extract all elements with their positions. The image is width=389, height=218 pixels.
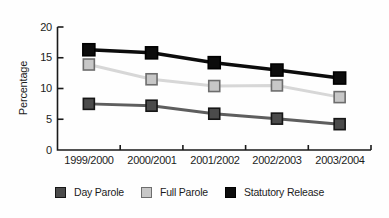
y-tick-label-0: 0: [28, 144, 52, 156]
legend-label-day-parole: Day Parole: [74, 186, 124, 198]
y-tick-label-10: 10: [28, 82, 52, 94]
legend-label-full-parole: Full Parole: [160, 186, 208, 198]
day-parole-swatch-icon: [55, 187, 66, 198]
x-tick-label-2000-2001: 2000/2001: [120, 154, 184, 167]
x-tick-label-2002-2003: 2002/2003: [245, 154, 309, 167]
x-tick-label-2001-2002: 2001/2002: [183, 154, 247, 167]
legend-label-statutory-release: Statutory Release: [244, 186, 324, 198]
parole-percentage-line-chart: Percentage 0 5 10 15 20 1999/2000 2000/2…: [0, 0, 389, 218]
y-tick-label-5: 5: [28, 113, 52, 125]
y-tick-label-15: 15: [28, 51, 52, 63]
x-tick-label-1999-2000: 1999/2000: [57, 154, 121, 167]
statutory-release-swatch-icon: [225, 187, 236, 198]
legend-item-day-parole: Day Parole: [55, 186, 124, 198]
legend-item-statutory-release: Statutory Release: [225, 186, 324, 198]
legend-item-full-parole: Full Parole: [141, 186, 208, 198]
x-tick-label-2003-2004: 2003/2004: [308, 154, 372, 167]
y-tick-label-20: 20: [28, 21, 52, 33]
chart-legend: Day Parole Full Parole Statutory Release: [55, 186, 324, 198]
full-parole-swatch-icon: [141, 187, 152, 198]
